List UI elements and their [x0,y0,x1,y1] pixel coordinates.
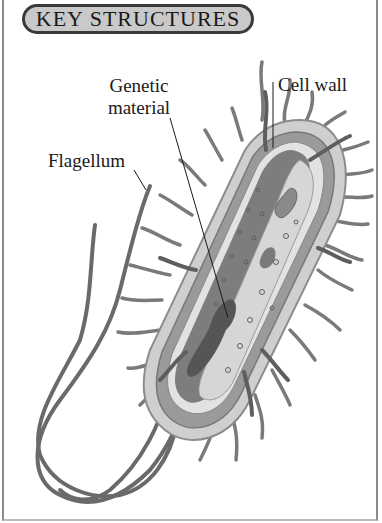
genetic-material-label-line2: material [104,97,174,119]
flagellum-label: Flagellum [48,150,125,172]
genetic-material-label: Genetic material [104,75,174,119]
genetic-material-label-line1: Genetic [104,75,174,97]
cell-wall-label: Cell wall [278,74,347,96]
